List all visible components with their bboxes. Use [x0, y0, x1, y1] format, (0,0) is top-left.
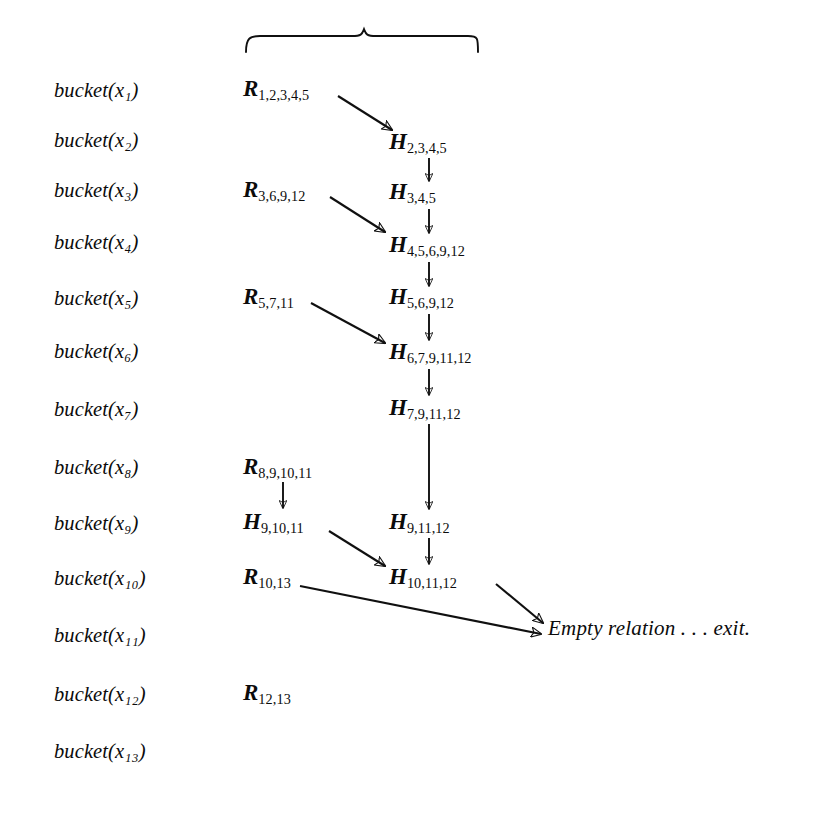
- bucket-label-10: bucket(x₁₀): [54, 568, 146, 589]
- relation-head: H: [243, 509, 261, 534]
- relation-subscript: 10,13: [258, 575, 291, 591]
- relation-head: H: [389, 395, 407, 420]
- relation-R-12-13: R12,13: [243, 681, 291, 707]
- relation-R-10-13: R10,13: [243, 565, 291, 591]
- relation-H-7-9-11-12: H7,9,11,12: [389, 396, 461, 422]
- relation-subscript: 2,3,4,5: [407, 140, 447, 156]
- relation-H-5-6-9-12: H5,6,9,12: [389, 285, 454, 311]
- relation-head: H: [389, 179, 407, 204]
- bucket-label-3: bucket(x₃): [54, 180, 138, 201]
- relation-subscript: 6,7,9,11,12: [407, 350, 472, 366]
- arrow-R1-to-H2: [338, 96, 392, 130]
- relation-subscript: 10,11,12: [407, 575, 457, 591]
- relation-head: R: [243, 76, 258, 101]
- grouping-brace: [246, 29, 478, 52]
- relation-subscript: 4,5,6,9,12: [407, 243, 465, 259]
- relation-subscript: 3,6,9,12: [258, 188, 305, 204]
- bucket-label-7: bucket(x₇): [54, 399, 138, 420]
- arrow-R5-to-H6: [311, 303, 385, 343]
- relation-subscript: 9,11,12: [407, 520, 450, 536]
- relation-head: H: [389, 564, 407, 589]
- relation-subscript: 8,9,10,11: [258, 465, 312, 481]
- relation-head: H: [389, 284, 407, 309]
- bucket-label-11: bucket(x₁₁): [54, 625, 146, 646]
- bucket-label-4: bucket(x₄): [54, 232, 138, 253]
- relation-head: R: [243, 284, 258, 309]
- terminal-message: Empty relation . . . exit.: [548, 618, 750, 639]
- relation-H-6-7-9-11-12: H6,7,9,11,12: [389, 340, 472, 366]
- figure-canvas: bucket(x₁) bucket(x₂) bucket(x₃) bucket(…: [0, 0, 816, 817]
- relation-head: H: [389, 339, 407, 364]
- relation-H-9-10-11: H9,10,11: [243, 510, 304, 536]
- relation-H-2-3-4-5: H2,3,4,5: [389, 130, 447, 156]
- relation-subscript: 5,7,11: [258, 295, 294, 311]
- bucket-label-8: bucket(x₈): [54, 457, 138, 478]
- bucket-label-6: bucket(x₆): [54, 341, 138, 362]
- bucket-label-9: bucket(x₉): [54, 513, 138, 534]
- relation-subscript: 12,13: [258, 691, 291, 707]
- relation-head: R: [243, 454, 258, 479]
- relation-H-9-11-12: H9,11,12: [389, 510, 450, 536]
- bucket-label-1: bucket(x₁): [54, 80, 138, 101]
- relation-head: H: [389, 232, 407, 257]
- relation-subscript: 1,2,3,4,5: [258, 87, 309, 103]
- bucket-label-5: bucket(x₅): [54, 288, 138, 309]
- relation-subscript: 9,10,11: [261, 520, 304, 536]
- relation-R-3-6-9-12: R3,6,9,12: [243, 178, 305, 204]
- relation-subscript: 7,9,11,12: [407, 406, 461, 422]
- bucket-label-12: bucket(x₁₂): [54, 684, 146, 705]
- bucket-label-2: bucket(x₂): [54, 130, 138, 151]
- relation-R-5-7-11: R5,7,11: [243, 285, 294, 311]
- relation-head: R: [243, 680, 258, 705]
- relation-H-4-5-6-9-12: H4,5,6,9,12: [389, 233, 465, 259]
- relation-R-8-9-10-11: R8,9,10,11: [243, 455, 312, 481]
- relation-head: H: [389, 509, 407, 534]
- relation-subscript: 5,6,9,12: [407, 295, 454, 311]
- relation-R-1-2-3-4-5: R1,2,3,4,5: [243, 77, 309, 103]
- relation-head: R: [243, 564, 258, 589]
- arrow-R10-to-terminal: [300, 586, 541, 634]
- arrow-H10-to-terminal: [496, 584, 543, 623]
- relation-H-3-4-5: H3,4,5: [389, 180, 436, 206]
- bucket-label-13: bucket(x₁₃): [54, 741, 146, 762]
- relation-H-10-11-12: H10,11,12: [389, 565, 457, 591]
- arrow-H9side-to-H10: [329, 531, 385, 566]
- relation-head: R: [243, 177, 258, 202]
- relation-head: H: [389, 129, 407, 154]
- arrow-R3-to-H4: [330, 197, 385, 232]
- relation-subscript: 3,4,5: [407, 190, 436, 206]
